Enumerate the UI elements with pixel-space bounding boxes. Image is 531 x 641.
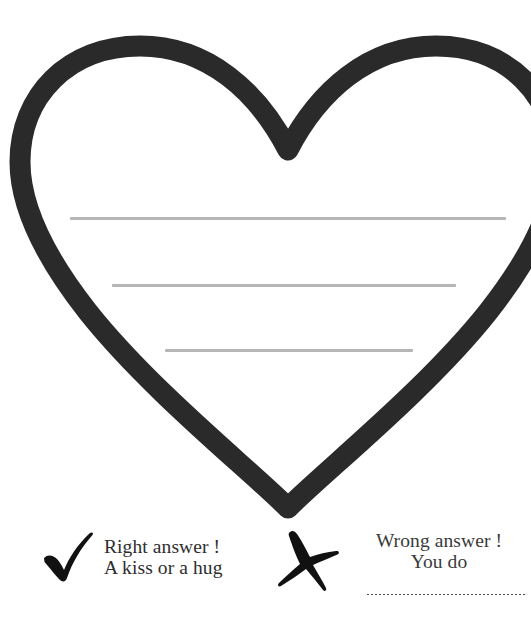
worksheet-page: Right answer ! A kiss or a hug Wrong ans… xyxy=(0,0,531,641)
wrong-answer-block: Wrong answer ! You do xyxy=(272,520,531,620)
check-mark-icon xyxy=(40,528,98,586)
answer-legend-row: Right answer ! A kiss or a hug Wrong ans… xyxy=(0,520,531,620)
right-answer-text: Right answer ! A kiss or a hug xyxy=(104,536,223,578)
right-answer-block: Right answer ! A kiss or a hug xyxy=(40,520,270,620)
wrong-answer-line-1: Wrong answer ! xyxy=(350,530,528,551)
wrong-answer-line-2: You do xyxy=(350,551,528,572)
heart-writing-line-2 xyxy=(112,284,456,287)
right-answer-line-2: A kiss or a hug xyxy=(104,557,223,578)
right-answer-line-1: Right answer ! xyxy=(104,536,223,557)
heart-writing-line-1 xyxy=(70,217,506,220)
wrong-answer-blank-rule xyxy=(366,593,526,596)
heart-writing-line-3 xyxy=(165,349,413,352)
wrong-answer-text: Wrong answer ! You do xyxy=(350,530,528,572)
cross-mark-icon xyxy=(272,528,342,594)
